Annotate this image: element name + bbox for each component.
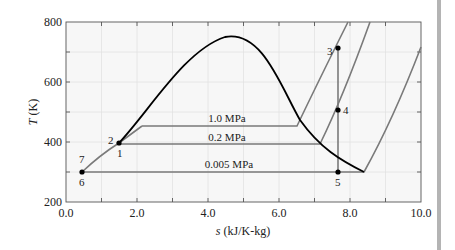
point-label-3: 3 bbox=[327, 45, 333, 57]
state-point-1-2 bbox=[116, 140, 121, 145]
state-point-6-7 bbox=[79, 169, 84, 174]
x-tick-label: 2.0 bbox=[130, 206, 145, 220]
x-tick-label: 4.0 bbox=[201, 206, 216, 220]
x-axis-title: s (kJ/K-kg) bbox=[216, 224, 270, 238]
y-axis-title: T (K) bbox=[26, 99, 40, 125]
state-point-5 bbox=[335, 169, 340, 174]
point-label-5: 5 bbox=[335, 176, 341, 188]
y-tick-label: 800 bbox=[44, 15, 62, 29]
state-point-3 bbox=[335, 45, 340, 50]
x-tick-label: 10.0 bbox=[411, 206, 432, 220]
point-label-4: 4 bbox=[343, 104, 349, 116]
point-label-6: 6 bbox=[79, 176, 85, 188]
x-tick-labels: 0.0 2.0 4.0 6.0 8.0 10.0 bbox=[59, 206, 432, 220]
isobar-label-1-0: 1.0 MPa bbox=[208, 112, 245, 124]
y-tick-label: 400 bbox=[44, 135, 62, 149]
point-label-1: 1 bbox=[117, 147, 123, 159]
isobar-label-0-2: 0.2 MPa bbox=[208, 131, 245, 143]
state-point-4 bbox=[335, 107, 340, 112]
isobar-label-0-005: 0.005 MPa bbox=[205, 158, 253, 170]
side-divider bbox=[437, 0, 441, 250]
y-tick-label: 600 bbox=[44, 75, 62, 89]
point-label-7: 7 bbox=[79, 153, 85, 165]
y-tick-labels: 200 400 600 800 bbox=[44, 15, 62, 209]
x-tick-label: 8.0 bbox=[343, 206, 358, 220]
point-label-2: 2 bbox=[108, 134, 114, 146]
x-tick-label: 6.0 bbox=[272, 206, 287, 220]
ts-diagram: 0.0 2.0 4.0 6.0 8.0 10.0 200 400 600 800… bbox=[0, 0, 455, 250]
y-tick-label: 200 bbox=[44, 195, 62, 209]
